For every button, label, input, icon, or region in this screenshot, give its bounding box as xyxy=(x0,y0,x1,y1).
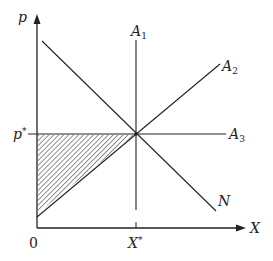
line-a2-label: A2 xyxy=(222,59,238,76)
origin-label: 0 xyxy=(29,236,38,250)
x-axis-arrow-icon xyxy=(236,225,246,232)
p-star-label: p* xyxy=(13,127,26,141)
x-axis-label: X xyxy=(250,221,260,235)
line-n-label: N xyxy=(218,194,230,208)
x-star-label: X* xyxy=(128,236,142,250)
line-a3-label: A3 xyxy=(229,127,245,144)
line-a1-label: A1 xyxy=(131,24,147,41)
y-axis-label: p xyxy=(18,10,27,24)
shaded-surplus-area xyxy=(38,135,134,213)
equilibrium-point xyxy=(134,132,138,136)
y-axis-arrow-icon xyxy=(34,14,41,24)
